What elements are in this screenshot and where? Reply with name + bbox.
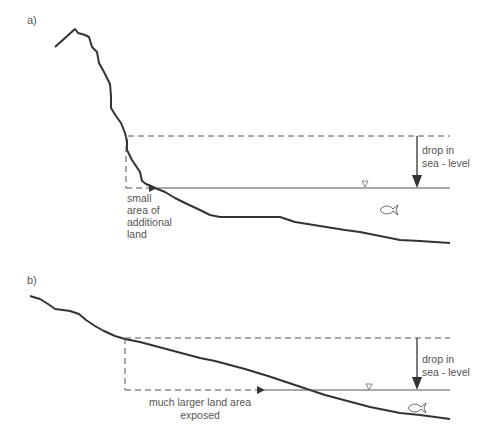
panel-a-drop-arrowhead: [412, 175, 422, 188]
fish-icon: [380, 205, 398, 215]
panel-a-label: a): [27, 14, 37, 26]
panel-b-drop-arrowhead: [412, 377, 422, 390]
panel-b-drop-label-1: drop in: [422, 353, 454, 365]
sea-level-diagram: a) drop in sea - level small area of add…: [0, 0, 492, 447]
panel-b-land-label-1: much larger land area: [149, 396, 251, 408]
panel-b: b) drop in sea - level much larger land …: [27, 274, 470, 421]
panel-a-land-label-3: additional: [127, 216, 172, 228]
panel-a-land-label-1: small: [127, 192, 152, 204]
panel-b-land-label-2: exposed: [180, 409, 220, 421]
panel-a-drop-label-1: drop in: [422, 144, 454, 156]
panel-a: a) drop in sea - level small area of add…: [27, 14, 470, 243]
water-level-icon: [362, 181, 368, 187]
water-level-icon: [366, 384, 372, 390]
panel-b-label: b): [27, 274, 37, 286]
panel-b-drop-label-2: sea - level: [422, 366, 470, 378]
panel-a-drop-label-2: sea - level: [422, 157, 470, 169]
panel-a-land-label-2: area of: [127, 204, 160, 216]
fish-icon: [408, 403, 426, 413]
panel-a-land-label-4: land: [127, 228, 147, 240]
